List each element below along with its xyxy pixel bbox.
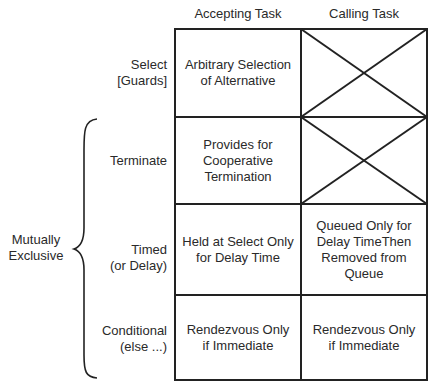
row-label-select: Select [Guards] bbox=[90, 57, 167, 89]
cell-timed-calling: Queued Only for Delay TimeThen Removed f… bbox=[302, 205, 426, 294]
cell-text: Queued Only for Delay TimeThen Removed f… bbox=[316, 218, 411, 282]
row-label-conditional: Conditional (else ...) bbox=[90, 323, 167, 355]
group-label-mutually-exclusive: Mutually Exclusive bbox=[0, 232, 72, 264]
cell-text: Held at Select Only for Delay Time bbox=[182, 234, 293, 266]
cell-select-accepting: Arbitrary Selection of Alternative bbox=[176, 30, 300, 116]
cell-text: Rendezvous Only if Immediate bbox=[187, 322, 290, 354]
crossed-cell-select-calling bbox=[301, 29, 427, 117]
cell-conditional-accepting: Rendezvous Only if Immediate bbox=[176, 296, 300, 379]
crossed-cell-terminate-calling bbox=[301, 117, 427, 204]
cell-text: Provides for Cooperative Termination bbox=[203, 137, 273, 185]
cell-terminate-accepting: Provides for Cooperative Termination bbox=[176, 118, 300, 203]
cell-timed-accepting: Held at Select Only for Delay Time bbox=[176, 205, 300, 294]
row-label-timed: Timed (or Delay) bbox=[90, 242, 167, 274]
row-label-terminate: Terminate bbox=[90, 153, 167, 169]
cell-text: Arbitrary Selection of Alternative bbox=[185, 57, 291, 89]
cell-text: Rendezvous Only if Immediate bbox=[313, 322, 416, 354]
cell-conditional-calling: Rendezvous Only if Immediate bbox=[302, 296, 426, 379]
